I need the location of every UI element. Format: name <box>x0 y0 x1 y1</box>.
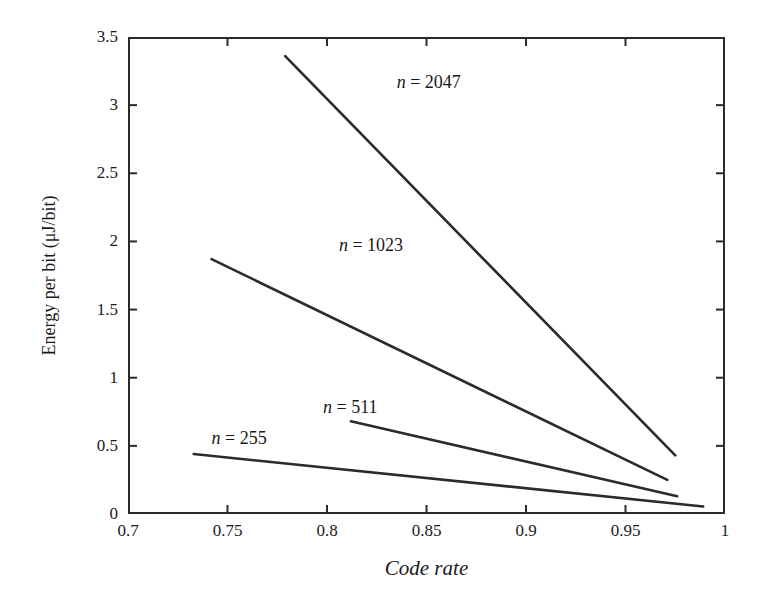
x-axis-tick-labels: 0.70.750.80.850.90.951 <box>0 0 767 614</box>
series-label-variable: n <box>339 235 348 255</box>
x-axis-title: Code rate <box>128 556 725 581</box>
y-axis-title: Energy per bit (μJ/bit) <box>34 37 64 514</box>
series-label-value: = 511 <box>332 397 377 417</box>
chart-page: 00.511.522.533.5 0.70.750.80.850.90.951 … <box>0 0 767 614</box>
series-label-n511: n = 511 <box>323 397 377 418</box>
series-label-n2047: n = 2047 <box>397 72 461 93</box>
x-tick-label: 0.85 <box>412 521 442 541</box>
x-tick-label: 0.9 <box>515 521 536 541</box>
series-label-n1023: n = 1023 <box>339 235 403 256</box>
series-label-value: = 255 <box>221 428 267 448</box>
x-tick-label: 0.8 <box>316 521 337 541</box>
series-label-variable: n <box>212 428 221 448</box>
series-label-value: = 2047 <box>406 72 461 92</box>
x-tick-label: 0.7 <box>117 521 138 541</box>
x-tick-label: 1 <box>721 521 730 541</box>
series-label-n255: n = 255 <box>212 428 267 449</box>
series-label-variable: n <box>397 72 406 92</box>
x-tick-label: 0.75 <box>213 521 243 541</box>
series-label-variable: n <box>323 397 332 417</box>
series-label-value: = 1023 <box>348 235 403 255</box>
x-tick-label: 0.95 <box>611 521 641 541</box>
